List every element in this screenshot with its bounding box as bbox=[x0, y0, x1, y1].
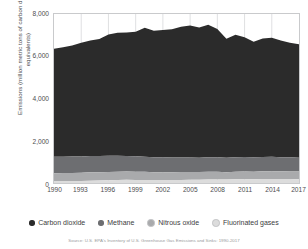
legend-item-methane[interactable]: Methane bbox=[98, 219, 134, 227]
legend-item-nitrous-oxide[interactable]: Nitrous oxide bbox=[147, 219, 199, 227]
y-axis-tick-labels: 02,0004,0006,0008,000 bbox=[12, 13, 49, 184]
legend-label: Methane bbox=[107, 219, 134, 227]
x-tick-label: 1990 bbox=[47, 186, 62, 194]
plot-area bbox=[53, 13, 300, 184]
stacked-area-svg bbox=[54, 14, 299, 183]
x-axis-tick-labels: 1990199319961999200220052008201120142017 bbox=[53, 186, 300, 198]
legend-swatch-icon bbox=[147, 219, 154, 226]
y-tick-label: 2,000 bbox=[32, 138, 49, 145]
area-series-methane bbox=[54, 156, 299, 174]
legend-swatch-icon bbox=[98, 220, 103, 225]
x-tick-label: 2002 bbox=[155, 186, 170, 194]
x-tick-label: 2014 bbox=[265, 186, 280, 194]
legend-label: Fluorinated gases bbox=[223, 219, 279, 227]
legend-swatch-icon bbox=[212, 219, 219, 226]
x-tick-label: 2017 bbox=[291, 186, 306, 194]
emissions-area-chart: Emissions (million metric tons of carbon… bbox=[0, 0, 308, 249]
y-tick-label: 8,000 bbox=[32, 10, 49, 17]
legend-label: Carbon dioxide bbox=[38, 219, 85, 227]
legend-item-fluorinated-gases[interactable]: Fluorinated gases bbox=[212, 219, 279, 227]
y-tick-label: 4,000 bbox=[32, 95, 49, 102]
chart-legend: Carbon dioxideMethaneNitrous oxideFluori… bbox=[0, 215, 308, 231]
legend-label: Nitrous oxide bbox=[158, 219, 199, 227]
legend-swatch-icon bbox=[29, 220, 34, 225]
x-tick-label: 2011 bbox=[238, 186, 252, 194]
x-tick-label: 2005 bbox=[183, 186, 198, 194]
x-tick-label: 1996 bbox=[101, 186, 116, 194]
x-tick-label: 2008 bbox=[210, 186, 225, 194]
x-tick-label: 1999 bbox=[128, 186, 143, 194]
area-series-carbon-dioxide bbox=[54, 25, 299, 158]
legend-item-carbon-dioxide[interactable]: Carbon dioxide bbox=[29, 219, 85, 227]
source-caption: Source: U.S. EPA's Inventory of U.S. Gre… bbox=[0, 238, 308, 244]
x-tick-label: 1993 bbox=[73, 186, 88, 194]
y-tick-label: 6,000 bbox=[32, 52, 49, 59]
